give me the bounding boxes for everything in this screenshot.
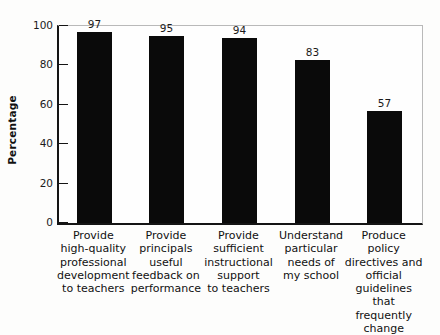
x-axis-label-line: development <box>54 269 133 282</box>
x-axis-label-1: Providehigh-qualityprofessionaldevelopme… <box>54 229 133 295</box>
y-axis-tick-label: 80 <box>40 58 53 70</box>
x-axis-label-line: useful <box>127 256 206 269</box>
x-axis-label-line: Produce policy <box>344 229 423 256</box>
y-axis-tick-label: 60 <box>40 98 53 110</box>
x-axis-label-line: my school <box>272 269 351 282</box>
y-axis-tick-label: 20 <box>40 177 53 189</box>
x-axis-label-line: Provide <box>54 229 133 242</box>
x-axis-label-line: sufficient <box>199 242 278 255</box>
bar-value-label: 57 <box>378 97 391 109</box>
bar-value-label: 95 <box>160 22 173 34</box>
y-axis-tick-label: 100 <box>33 19 53 31</box>
x-axis-label-line: official <box>344 269 423 282</box>
x-axis-label-line: to teachers <box>54 282 133 295</box>
bar: 97 <box>77 32 112 223</box>
x-axis-label-line: Understand <box>272 229 351 242</box>
y-axis-tick-label: 0 <box>46 216 53 228</box>
y-axis-tick: 100 <box>59 25 68 26</box>
x-axis-category-labels: Providehigh-qualityprofessionaldevelopme… <box>57 229 422 317</box>
bar-value-label: 83 <box>306 46 319 58</box>
x-axis-label-5: Produce policydirectives andofficialguid… <box>344 229 423 335</box>
x-axis-label-line: high-quality <box>54 242 133 255</box>
x-axis-label-line: needs of <box>272 256 351 269</box>
y-axis-tick: 80 <box>59 64 68 65</box>
y-axis-tick: 60 <box>59 104 68 105</box>
x-axis-label-line: guidelines <box>344 282 423 295</box>
x-axis-label-line: principals <box>127 242 206 255</box>
bar: 95 <box>149 36 184 223</box>
plot-area: 020406080100 9795948357 <box>57 25 423 225</box>
x-axis-label-line: feedback on <box>127 269 206 282</box>
x-axis-label-2: Provideprincipalsusefulfeedback onperfor… <box>127 229 206 295</box>
y-axis-tick-label: 40 <box>40 137 53 149</box>
x-axis-label-line: particular <box>272 242 351 255</box>
x-axis-label-line: performance <box>127 282 206 295</box>
x-axis-label-line: professional <box>54 256 133 269</box>
x-axis-label-line: instructional <box>199 256 278 269</box>
y-axis-tick: 20 <box>59 183 68 184</box>
x-axis-label-3: Providesufficientinstructionalsupportto … <box>199 229 278 295</box>
x-axis-label-line: support <box>199 269 278 282</box>
x-axis-label-line: Provide <box>199 229 278 242</box>
x-axis-label-line: that frequently <box>344 295 423 322</box>
bar-value-label: 97 <box>88 18 101 30</box>
x-axis-label-line: to teachers <box>199 282 278 295</box>
y-axis-tick: 40 <box>59 143 68 144</box>
bar-value-label: 94 <box>233 24 246 36</box>
x-axis-label-line: change <box>344 322 423 335</box>
y-axis-tick: 0 <box>59 222 68 223</box>
x-axis-label-4: Understandparticularneeds ofmy school <box>272 229 351 282</box>
bar: 57 <box>367 111 402 223</box>
bar: 83 <box>295 60 330 224</box>
x-axis-label-line: Provide <box>127 229 206 242</box>
x-axis-label-line: directives and <box>344 256 423 269</box>
bar: 94 <box>222 38 257 223</box>
